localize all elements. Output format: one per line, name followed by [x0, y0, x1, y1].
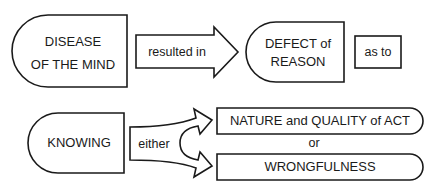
node-defect-line1: DEFECT of: [252, 36, 344, 52]
arrow-either-label: either: [134, 136, 174, 152]
arrow-resulted-in-label: resulted in: [140, 44, 214, 60]
connector-or-label: or: [300, 135, 328, 151]
node-disease-line1: DISEASE: [22, 34, 124, 50]
node-defect: DEFECT of REASON: [252, 36, 344, 70]
option-wrongfulness-label: WRONGFULNESS: [217, 159, 423, 175]
node-defect-line2: REASON: [252, 54, 344, 70]
node-disease: DISEASE OF THE MIND: [22, 34, 124, 73]
node-knowing-label: KNOWING: [36, 135, 122, 151]
node-as-to-label: as to: [355, 44, 401, 60]
node-disease-line2: OF THE MIND: [22, 57, 124, 73]
option-nature-label: NATURE and QUALITY of ACT: [217, 113, 423, 129]
